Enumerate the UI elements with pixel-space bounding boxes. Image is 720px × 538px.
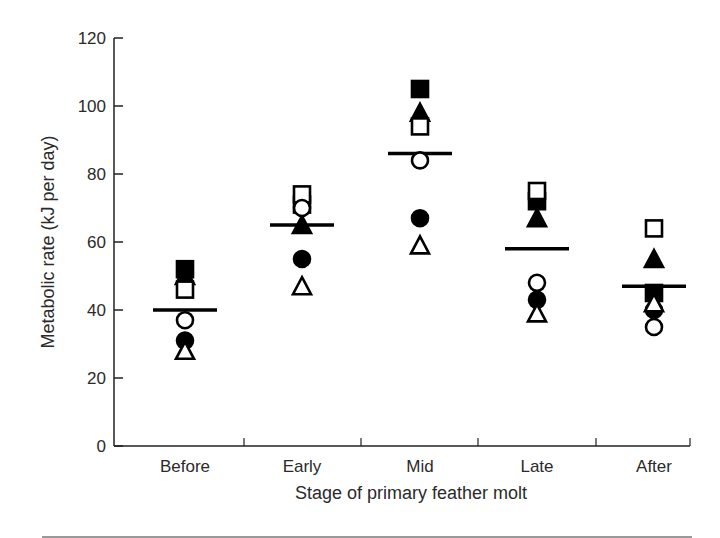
- open-square-marker: [529, 183, 545, 199]
- y-axis-title: Metabolic rate (kJ per day): [38, 135, 58, 348]
- filled-square-marker: [412, 81, 428, 97]
- data-points: [176, 81, 663, 359]
- y-tick-label: 20: [87, 369, 106, 388]
- metabolic-rate-chart: 020406080100120BeforeEarlyMidLateAfter M…: [0, 0, 720, 538]
- axes: 020406080100120BeforeEarlyMidLateAfter: [78, 29, 690, 476]
- y-tick-label: 80: [87, 165, 106, 184]
- open-triangle-marker: [293, 277, 311, 294]
- filled-triangle-marker: [528, 209, 546, 226]
- y-tick-label: 40: [87, 301, 106, 320]
- open-circle-marker: [177, 312, 193, 328]
- open-circle-marker: [294, 200, 310, 216]
- open-triangle-marker: [411, 236, 429, 253]
- open-circle-marker: [529, 275, 545, 291]
- open-circle-marker: [412, 152, 428, 168]
- x-tick-label: After: [636, 457, 672, 476]
- mean-bars: [153, 154, 686, 310]
- filled-circle-marker: [294, 251, 310, 267]
- x-tick-label: Before: [160, 457, 210, 476]
- open-square-marker: [412, 118, 428, 134]
- x-axis-title: Stage of primary feather molt: [295, 483, 527, 503]
- y-tick-label: 0: [97, 437, 106, 456]
- y-tick-label: 100: [78, 97, 106, 116]
- open-square-marker: [177, 282, 193, 298]
- open-triangle-marker: [528, 304, 546, 321]
- y-tick-label: 60: [87, 233, 106, 252]
- x-tick-label: Mid: [406, 457, 433, 476]
- filled-triangle-marker: [645, 250, 663, 267]
- open-square-marker: [646, 220, 662, 236]
- open-circle-marker: [646, 319, 662, 335]
- x-tick-label: Early: [283, 457, 322, 476]
- x-tick-label: Late: [520, 457, 553, 476]
- filled-circle-marker: [412, 210, 428, 226]
- y-tick-label: 120: [78, 29, 106, 48]
